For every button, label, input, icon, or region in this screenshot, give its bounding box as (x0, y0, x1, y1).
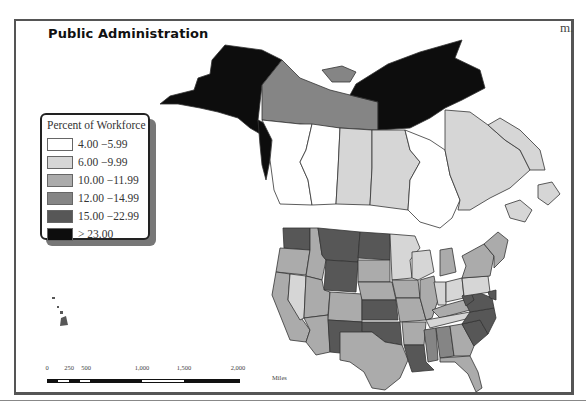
legend-swatch (47, 156, 73, 169)
scale-tick: 1,500 (177, 364, 192, 371)
region-kansas (362, 300, 398, 320)
legend-swatch (47, 192, 73, 205)
region-arkansas (402, 322, 426, 345)
legend: Percent of Workforce 4.00 −5.99 6.00 −9.… (40, 113, 150, 240)
region-saskatchewan (336, 128, 372, 205)
region-north-dakota (358, 232, 390, 260)
region-montana (318, 228, 360, 262)
scale-bar-graphic (47, 379, 240, 383)
region-colorado (328, 292, 362, 322)
legend-swatch (47, 228, 73, 241)
legend-swatch (47, 138, 73, 151)
legend-row: 4.00 −5.99 (47, 135, 143, 153)
legend-label: 10.00 −11.99 (78, 174, 139, 186)
scale-tick: 1,000 (135, 364, 150, 371)
scale-tick: 250 (64, 364, 74, 371)
legend-label: 15.00 −22.99 (78, 210, 139, 222)
region-maritimes (505, 200, 532, 222)
region-nwt-island (322, 66, 356, 82)
region-nebraska (358, 282, 396, 300)
legend-title: Percent of Workforce (47, 119, 143, 131)
region-south-dakota (358, 260, 390, 282)
scale-tick: 2,000 (231, 364, 246, 371)
legend-label: 12.00 −14.99 (78, 192, 139, 204)
region-quebec (445, 110, 530, 210)
region-mississippi (424, 328, 438, 362)
region-wyoming (324, 260, 358, 292)
region-pennsylvania (462, 276, 490, 296)
legend-swatch (47, 174, 73, 187)
region-washington (283, 228, 310, 250)
legend-row: 12.00 −14.99 (47, 189, 143, 207)
region-ohio (446, 278, 464, 302)
region-newfoundland-island (538, 182, 560, 205)
scale-units: Miles (272, 374, 287, 381)
legend-row: 10.00 −11.99 (47, 171, 143, 189)
region-wisconsin (412, 250, 434, 280)
region-iowa (392, 280, 420, 298)
map-title: Public Administration (48, 26, 208, 41)
region-oregon (276, 248, 310, 275)
caption-divider (0, 400, 586, 401)
legend-row: 6.00 −9.99 (47, 153, 143, 171)
scale-tick: 500 (81, 364, 91, 371)
region-florida (440, 356, 482, 392)
corner-mark: m. (560, 20, 573, 36)
legend-swatch (47, 210, 73, 223)
legend-label: 4.00 −5.99 (78, 138, 128, 150)
scale-tick: 0 (45, 364, 48, 371)
legend-row: > 23.00 (47, 225, 143, 243)
legend-label: 6.00 −9.99 (78, 156, 128, 168)
legend-label: > 23.00 (78, 228, 113, 240)
region-michigan (440, 248, 456, 276)
region-hawaii (52, 297, 68, 326)
legend-row: 15.00 −22.99 (47, 207, 143, 225)
